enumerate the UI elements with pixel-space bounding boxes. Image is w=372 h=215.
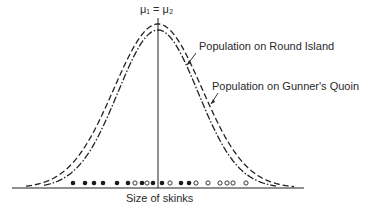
open-point xyxy=(145,181,149,185)
gunners-quoin-label: Population on Gunner's Quoin xyxy=(212,80,359,92)
open-point xyxy=(244,181,248,185)
filled-point xyxy=(71,181,76,186)
distribution-plot xyxy=(0,0,372,215)
filled-point xyxy=(160,181,165,186)
filled-point xyxy=(83,181,88,186)
x-axis-label: Size of skinks xyxy=(126,192,193,204)
open-point xyxy=(231,181,235,185)
open-point xyxy=(133,181,137,185)
open-point xyxy=(206,181,210,185)
open-point xyxy=(218,181,222,185)
filled-point xyxy=(92,181,97,186)
filled-point xyxy=(101,181,106,186)
filled-point xyxy=(140,181,145,186)
filled-point xyxy=(187,181,192,186)
filled-point xyxy=(179,181,184,186)
mean-label: μ₁ = μ₂ xyxy=(140,3,173,15)
open-point xyxy=(168,181,172,185)
filled-point xyxy=(151,181,156,186)
gunners-quoin-curve xyxy=(44,30,276,186)
open-point xyxy=(225,181,229,185)
skink-size-distribution-figure: μ₁ = μ₂ Population on Round Island Popul… xyxy=(0,0,372,215)
round-island-label: Population on Round Island xyxy=(199,40,334,52)
filled-point xyxy=(126,181,131,186)
sample-points xyxy=(71,181,248,186)
open-point xyxy=(194,181,198,185)
filled-point xyxy=(115,181,120,186)
